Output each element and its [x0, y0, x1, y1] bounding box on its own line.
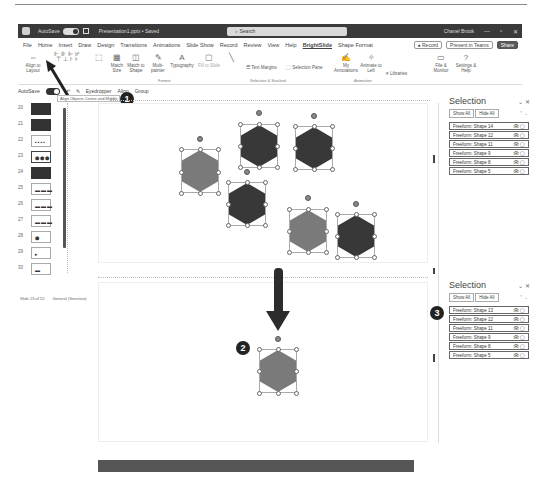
pane-controls[interactable]: ⌄ ✕ — [518, 282, 530, 289]
eye-lock-icon[interactable]: 👁▢ — [513, 159, 526, 165]
eyedropper-button[interactable]: Eyedropper — [86, 88, 112, 94]
thumbnail-27[interactable]: 27 ▬▬▬ — [18, 215, 58, 229]
resize-handle[interactable] — [226, 223, 231, 228]
tab-draw[interactable]: Draw — [78, 42, 91, 48]
tab-brightslide[interactable]: BrightSlide — [303, 42, 332, 48]
selection-item[interactable]: Freeform: Shape 8👁▢ — [449, 342, 529, 350]
resize-handle[interactable] — [306, 207, 311, 212]
selection-pane-button[interactable]: ⬚ Selection Pane — [286, 65, 326, 70]
typography-button[interactable]: A Typography — [170, 53, 194, 68]
resize-handle[interactable] — [294, 391, 299, 396]
eye-lock-icon[interactable]: 👁▢ — [513, 325, 526, 331]
pane-controls[interactable]: ⌄ ✕ — [518, 98, 530, 105]
resize-handle[interactable] — [276, 391, 281, 396]
align-to-layout-button[interactable]: ⇔ Align to Layout — [22, 53, 44, 73]
thumbnail-22[interactable]: 22 ▪▪▪▪ — [18, 135, 58, 149]
multi-painter-button[interactable]: ✎ Multi-painter — [148, 53, 168, 73]
resize-handle[interactable] — [372, 255, 377, 260]
tab-help[interactable]: Help — [285, 42, 296, 48]
resize-handle[interactable] — [275, 122, 280, 127]
selection-item[interactable]: Freeform: Shape 5👁▢ — [449, 167, 529, 175]
thumbnail-24[interactable]: 24 — [18, 167, 58, 181]
eye-lock-icon[interactable]: 👁▢ — [513, 316, 526, 322]
maximize-button[interactable]: ▫ — [494, 28, 508, 34]
scrollbar-thumb[interactable] — [433, 354, 435, 362]
text-margins-button[interactable]: ☰ Text Margins — [246, 65, 282, 70]
fill-to-slide-button[interactable]: ▢ Fill to Slide — [198, 53, 220, 68]
selection-item[interactable]: Freeform: Shape 5👁▢ — [449, 351, 529, 359]
match-size-button[interactable]: ▦ Match Size — [108, 53, 126, 73]
show-all-button[interactable]: Show All — [449, 293, 474, 302]
resize-handle[interactable] — [238, 144, 243, 149]
tab-shape-format[interactable]: Shape Format — [338, 42, 373, 48]
resize-handle[interactable] — [306, 250, 311, 255]
record-button[interactable]: ● Record — [414, 41, 443, 49]
resize-handle[interactable] — [335, 234, 340, 239]
resize-handle[interactable] — [324, 207, 329, 212]
resize-handle[interactable] — [275, 165, 280, 170]
rotate-handle-icon[interactable] — [197, 136, 203, 142]
thumbnail-26[interactable]: 26 ▬▬▬ — [18, 199, 58, 213]
reorder-arrows-icon[interactable]: ⌃ ⌄ — [519, 110, 528, 116]
resize-handle[interactable] — [179, 147, 184, 152]
resize-handle[interactable] — [275, 144, 280, 149]
thumbnail-28[interactable]: 28 ⬢ — [18, 231, 58, 245]
thumbnail-30[interactable]: 30 ▬ — [18, 263, 58, 277]
selection-item[interactable]: Freeform: Shape 9👁▢ — [449, 333, 529, 341]
autosave-toggle[interactable] — [63, 28, 79, 35]
resize-handle[interactable] — [226, 202, 231, 207]
resize-handle[interactable] — [257, 391, 262, 396]
placeholder-button[interactable]: ⬚ — [92, 53, 106, 63]
thumbnail-scrollbar[interactable] — [63, 108, 66, 248]
rotate-handle-icon[interactable] — [305, 195, 311, 201]
thumbnail-21[interactable]: 21 — [18, 119, 58, 133]
libraries-button[interactable]: ≡ Libraries — [386, 71, 412, 76]
selection-item[interactable]: Freeform: Shape 11👁▢ — [449, 140, 529, 148]
selection-item[interactable]: Freeform: Shape 13👁▢ — [449, 306, 529, 314]
resize-handle[interactable] — [293, 124, 298, 129]
tab-design[interactable]: Design — [97, 42, 114, 48]
rotate-handle-icon[interactable] — [244, 169, 250, 175]
resize-handle[interactable] — [216, 147, 221, 152]
resize-handle[interactable] — [216, 191, 221, 196]
resize-handle[interactable] — [257, 122, 262, 127]
resize-handle[interactable] — [287, 207, 292, 212]
reorder-arrows-icon[interactable]: ⌃ ⌄ — [519, 294, 528, 300]
accessibility-status[interactable]: General (Sensitive) — [52, 296, 86, 301]
resize-handle[interactable] — [263, 202, 268, 207]
resize-handle[interactable] — [335, 255, 340, 260]
eye-lock-icon[interactable]: 👁▢ — [513, 307, 526, 313]
group-button[interactable]: Group — [135, 88, 149, 94]
resize-handle[interactable] — [276, 347, 281, 352]
resize-handle[interactable] — [294, 369, 299, 374]
resize-handle[interactable] — [372, 234, 377, 239]
tab-animations[interactable]: Animations — [153, 42, 180, 48]
search-input[interactable]: ⌕ Search — [227, 27, 347, 36]
tab-record[interactable]: Record — [220, 42, 238, 48]
eye-lock-icon[interactable]: 👁▢ — [513, 168, 526, 174]
resize-handle[interactable] — [179, 170, 184, 175]
resize-handle[interactable] — [216, 170, 221, 175]
resize-handle[interactable] — [294, 347, 299, 352]
resize-handle[interactable] — [324, 250, 329, 255]
selection-item[interactable]: Freeform: Shape 14👁▢ — [449, 122, 529, 130]
match-to-shape-button[interactable]: ◫ Match to Shape — [126, 53, 146, 73]
resize-handle[interactable] — [354, 255, 359, 260]
rotate-handle-icon[interactable] — [311, 113, 317, 119]
tab-transitions[interactable]: Transitions — [120, 42, 147, 48]
line-button[interactable]: ╲ — [224, 53, 238, 63]
minimize-button[interactable]: — — [480, 28, 494, 34]
thumbnail-20[interactable]: 20 — [18, 103, 58, 117]
resize-handle[interactable] — [330, 124, 335, 129]
tab-slide-show[interactable]: Slide Show — [186, 42, 214, 48]
resize-handle[interactable] — [179, 191, 184, 196]
tab-file[interactable]: File — [23, 42, 32, 48]
tab-insert[interactable]: Insert — [59, 42, 73, 48]
scrollbar-thumb[interactable] — [433, 268, 435, 274]
resize-handle[interactable] — [293, 146, 298, 151]
file-name[interactable]: Presentation1.pptx • Saved — [99, 28, 159, 34]
hide-all-button[interactable]: Hide All — [475, 109, 498, 118]
resize-handle[interactable] — [245, 223, 250, 228]
resize-handle[interactable] — [354, 212, 359, 217]
eye-lock-icon[interactable]: 👁▢ — [513, 352, 526, 358]
